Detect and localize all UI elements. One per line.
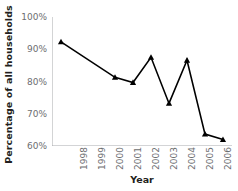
x-axis-tick-labels: 1998199920002001200220032004200520062007 <box>52 147 232 177</box>
x-axis-title: Year <box>52 174 232 185</box>
data-point-marker <box>166 100 172 106</box>
x-axis-tick-label: 2006 <box>224 147 233 177</box>
y-axis-tick-label: 70% <box>16 109 47 118</box>
x-axis-tick-label: 2001 <box>134 147 143 177</box>
y-axis-tick-label: 90% <box>16 45 47 54</box>
y-axis-tick-label: 60% <box>16 142 47 151</box>
y-axis-title: Percentage of all households <box>0 0 16 168</box>
data-series-line <box>52 17 232 146</box>
x-axis-tick-label: 2004 <box>188 147 197 177</box>
y-axis-tick-label: 80% <box>16 77 47 86</box>
x-axis-tick-label: 2000 <box>116 147 125 177</box>
x-axis-tick-label: 1998 <box>80 147 89 177</box>
x-axis-tick-label: 2002 <box>152 147 161 177</box>
x-axis-tick-label: 2003 <box>170 147 179 177</box>
y-axis-tick-label: 100% <box>16 13 47 22</box>
x-axis-tick-label: 2005 <box>206 147 215 177</box>
data-point-marker <box>202 131 208 137</box>
x-axis-tick-label: 1999 <box>98 147 107 177</box>
data-point-marker <box>58 39 64 45</box>
data-polyline <box>61 42 223 140</box>
line-chart: Percentage of all households 60%70%80%90… <box>0 0 238 191</box>
data-point-marker <box>148 54 154 60</box>
y-axis-tick-labels: 60%70%80%90%100% <box>16 10 49 152</box>
y-axis-title-text: Percentage of all households <box>3 5 14 164</box>
data-point-marker <box>184 57 190 63</box>
plot-area <box>52 17 232 146</box>
